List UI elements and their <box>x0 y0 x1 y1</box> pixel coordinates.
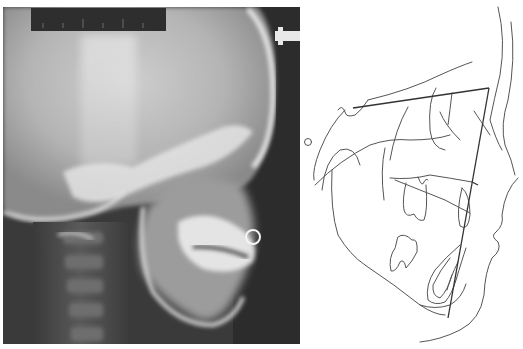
facial-plane-line <box>448 88 489 318</box>
tracing-drawing <box>300 0 523 349</box>
porion-marker <box>305 139 312 146</box>
sella-nasion-line <box>353 88 489 108</box>
radiograph-image <box>3 7 300 344</box>
ruler-strip <box>31 8 166 31</box>
lower-incisor <box>427 245 466 304</box>
cephalometric-radiograph <box>3 7 300 344</box>
upper-molar <box>403 183 426 220</box>
lower-molar <box>390 235 417 271</box>
cephalometric-tracing <box>300 0 523 349</box>
soft-tissue-profile-upper <box>490 7 503 150</box>
